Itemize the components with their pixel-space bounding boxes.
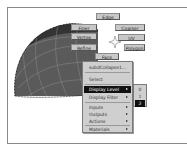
marking-menu-coarser[interactable]: Coarser [115, 24, 145, 31]
display-level-0[interactable]: 0 [135, 86, 145, 93]
menu-item-label: Display Filter [89, 95, 118, 100]
marking-menu-face[interactable]: Face [95, 53, 119, 60]
marking-menu-refine[interactable]: Refine [71, 44, 97, 51]
marking-menu-vertex[interactable]: Vertex [71, 33, 97, 40]
submenu-arrow-icon [126, 113, 128, 115]
display-level-2[interactable]: 2 [135, 100, 145, 107]
menu-divider [85, 102, 130, 103]
submenu-arrow-icon [126, 120, 128, 122]
menu-item-outputs[interactable]: Outputs [84, 111, 131, 118]
menu-item-label: Outputs [89, 112, 107, 117]
submenu-arrow-icon [126, 106, 128, 108]
menu-item-display-level[interactable]: Display Level [84, 86, 131, 93]
marking-menu-polygon[interactable]: Polygon [124, 44, 145, 51]
submenu-arrow-icon [126, 88, 128, 90]
menu-item-inputs[interactable]: Inputs [84, 104, 131, 111]
menu-item-label: Actions [89, 119, 105, 124]
menu-item-label: Inputs [89, 105, 103, 110]
menu-item-actions[interactable]: Actions [84, 118, 131, 125]
menu-divider [85, 72, 130, 73]
submenu-arrow-icon [126, 96, 128, 98]
menu-item-select[interactable]: Select [84, 76, 131, 83]
marking-menu-uv[interactable]: UV [118, 34, 145, 41]
display-level-1[interactable]: 1 [135, 93, 145, 100]
menu-divider [85, 84, 130, 85]
menu-item-label: Display Level [89, 87, 119, 92]
menu-item-label: Materials [89, 127, 110, 132]
marking-menu-edge[interactable]: Edge [96, 13, 120, 20]
menu-item-materials[interactable]: Materials [84, 126, 131, 133]
marking-menu-finer[interactable]: Finer [71, 24, 97, 31]
menu-item-label: Select [89, 77, 103, 82]
context-menu-header[interactable]: subdCollapse1... [84, 64, 131, 71]
display-level-submenu: 0 1 2 [133, 84, 147, 107]
context-menu: subdCollapse1... Select Display Level Di… [82, 61, 133, 133]
submenu-arrow-icon [126, 128, 128, 130]
menu-item-display-filter[interactable]: Display Filter [84, 94, 131, 101]
